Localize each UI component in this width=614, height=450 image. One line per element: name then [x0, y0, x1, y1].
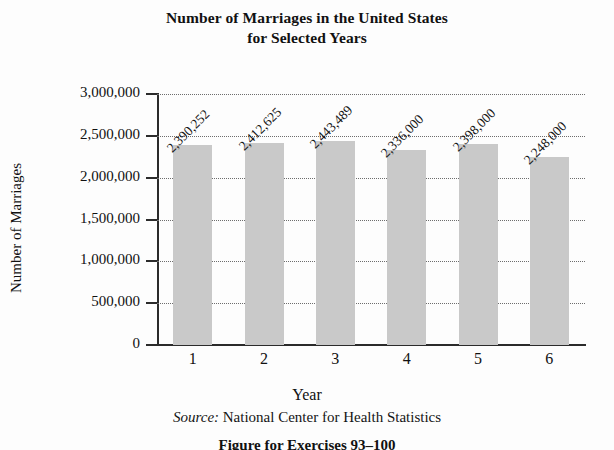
bar: [245, 143, 284, 345]
y-tick-label: 1,500,000: [20, 210, 140, 227]
x-tick-label: 5: [458, 350, 498, 368]
x-tick-label: 6: [529, 350, 569, 368]
source-label: Source:: [173, 409, 219, 425]
y-tick-label: 3,000,000: [20, 84, 140, 101]
bar: [387, 150, 426, 345]
bar: [173, 145, 212, 345]
y-tick-mark: [146, 344, 157, 346]
x-tick-label: 2: [244, 350, 284, 368]
gridline: [157, 261, 585, 262]
y-tick-mark: [146, 260, 157, 262]
x-tick-label: 1: [173, 350, 213, 368]
bar: [459, 144, 498, 345]
chart-title-line-2: for Selected Years: [0, 28, 614, 48]
chart-title-line-1: Number of Marriages in the United States: [166, 9, 448, 26]
figure-caption: Figure for Exercises 93–100: [0, 434, 614, 450]
y-tick-mark: [146, 219, 157, 221]
bar-chart-figure: Number of Marriages in the United States…: [0, 0, 614, 450]
gridline: [157, 94, 585, 95]
source-note: Source: National Center for Health Stati…: [0, 409, 614, 426]
gridline: [157, 178, 585, 179]
bar: [316, 141, 355, 345]
y-tick-label: 2,500,000: [20, 126, 140, 143]
y-tick-label: 500,000: [20, 293, 140, 310]
x-tick-label: 4: [387, 350, 427, 368]
y-axis-title: Number of Marriages: [8, 108, 32, 348]
chart-title: Number of Marriages in the United States…: [0, 8, 614, 48]
gridline: [157, 136, 585, 137]
y-tick-label: 1,000,000: [20, 251, 140, 268]
y-tick-mark: [146, 177, 157, 179]
y-tick-mark: [146, 302, 157, 304]
source-text: National Center for Health Statistics: [223, 409, 441, 425]
gridline: [157, 303, 585, 304]
bar: [530, 157, 569, 345]
x-axis-title: Year: [0, 386, 614, 404]
x-tick-label: 3: [315, 350, 355, 368]
y-tick-label: 2,000,000: [20, 168, 140, 185]
plot-area: [157, 94, 585, 345]
y-tick-mark: [146, 135, 157, 137]
y-tick-mark: [146, 93, 157, 95]
y-tick-label: 0: [20, 335, 140, 352]
gridline: [157, 220, 585, 221]
